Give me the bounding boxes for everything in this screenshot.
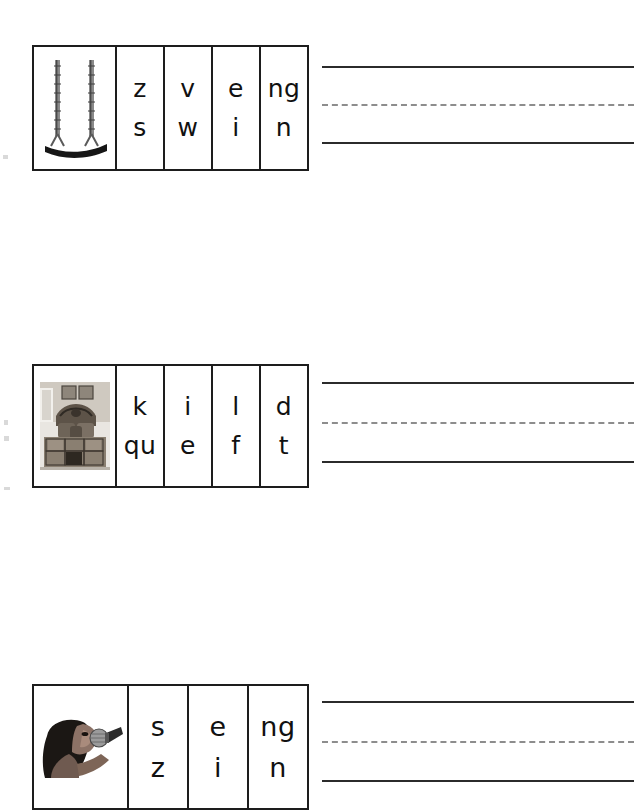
writing-line-top[interactable]: [322, 382, 634, 384]
letter-choice-cell[interactable]: s z: [129, 686, 189, 808]
scan-artifact: [3, 155, 8, 159]
word-builder-box: k qu i e l f d t: [32, 364, 309, 488]
letter-choice-cell[interactable]: v w: [165, 47, 213, 169]
writing-line-top[interactable]: [322, 701, 634, 703]
letter-choice-cell[interactable]: ng n: [261, 47, 307, 169]
letter-option-bottom[interactable]: n: [276, 115, 292, 140]
letter-option-top[interactable]: d: [276, 394, 292, 419]
letter-choice-cell[interactable]: ng n: [249, 686, 307, 808]
writing-line-top[interactable]: [322, 66, 634, 68]
letter-option-top[interactable]: v: [180, 76, 195, 101]
letter-option-top[interactable]: ng: [268, 76, 301, 101]
word-builder-box: s z e i ng n: [32, 684, 309, 810]
letter-option-bottom[interactable]: e: [180, 433, 196, 458]
letter-option-top[interactable]: i: [184, 394, 191, 419]
letter-choice-cell[interactable]: e i: [189, 686, 249, 808]
letter-option-bottom[interactable]: i: [232, 115, 239, 140]
letter-choice-cell[interactable]: i e: [165, 366, 213, 486]
quilt-bed-photo-icon: [40, 382, 110, 470]
writing-line-bottom[interactable]: [322, 461, 634, 463]
picture-cell: [34, 366, 117, 486]
picture-cell: [34, 47, 117, 169]
scan-artifact: [4, 436, 9, 441]
writing-line-bottom[interactable]: [322, 142, 634, 144]
singing-child-photo-icon: [39, 714, 123, 780]
writing-line-bottom[interactable]: [322, 780, 634, 782]
letter-option-bottom[interactable]: qu: [124, 433, 157, 458]
letter-choice-cell[interactable]: d t: [261, 366, 307, 486]
letter-option-top[interactable]: k: [133, 394, 148, 419]
letter-option-bottom[interactable]: z: [151, 754, 166, 781]
handwriting-lines[interactable]: [322, 382, 634, 462]
letter-option-bottom[interactable]: t: [279, 433, 289, 458]
letter-option-top[interactable]: ng: [260, 713, 295, 740]
letter-option-top[interactable]: e: [228, 76, 244, 101]
letter-option-bottom[interactable]: f: [231, 433, 240, 458]
letter-option-top[interactable]: e: [209, 713, 226, 740]
letter-option-top[interactable]: s: [151, 713, 166, 740]
letter-choice-cell[interactable]: k qu: [117, 366, 165, 486]
letter-option-top[interactable]: l: [232, 394, 239, 419]
letter-option-bottom[interactable]: w: [178, 115, 199, 140]
writing-line-middle[interactable]: [322, 104, 634, 106]
scan-artifact: [4, 420, 8, 425]
worksheet-page: z s v w e i ng n: [0, 0, 644, 812]
letter-option-bottom[interactable]: i: [214, 754, 222, 781]
letter-option-bottom[interactable]: s: [133, 115, 147, 140]
handwriting-lines[interactable]: [322, 66, 634, 144]
letter-choice-cell[interactable]: l f: [213, 366, 261, 486]
scan-artifact: [4, 487, 10, 490]
writing-line-middle[interactable]: [322, 422, 634, 424]
letter-choice-cell[interactable]: z s: [117, 47, 165, 169]
letter-option-bottom[interactable]: n: [269, 754, 287, 781]
writing-line-middle[interactable]: [322, 741, 634, 743]
handwriting-lines[interactable]: [322, 701, 634, 781]
letter-option-top[interactable]: z: [133, 76, 147, 101]
swing-photo-icon: [39, 56, 111, 160]
picture-cell: [34, 686, 129, 808]
letter-choice-cell[interactable]: e i: [213, 47, 261, 169]
word-builder-box: z s v w e i ng n: [32, 45, 309, 171]
